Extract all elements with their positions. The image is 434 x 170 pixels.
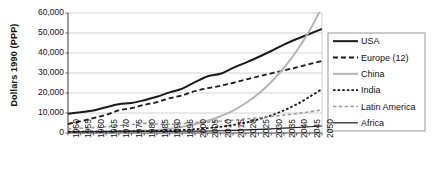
x-tick-label: 1980 [148,119,157,138]
x-tick-label: 1985 [161,119,170,138]
legend-label: Europe (12) [361,53,409,63]
y-tick-label: 10,000 [24,108,64,117]
x-tick-label: 1965 [110,119,119,138]
x-tick-label: 1970 [122,119,131,138]
x-tick-label: 2010 [224,119,233,138]
y-tick-label: 0 [24,128,64,137]
y-tick-label: 60,000 [24,8,64,17]
x-tick-label: 1955 [84,119,93,138]
x-tick-label: 2030 [275,119,284,138]
legend-label: India [361,85,381,95]
series-line-usa [68,29,322,114]
legend-label: Latin America [361,102,416,112]
x-tick-label: 1990 [173,119,182,138]
y-tick-label: 50,000 [24,28,64,37]
y-axis-title: Dollars 1990 (PPP) [9,5,19,125]
x-tick-label: 2005 [211,119,220,138]
x-tick-label: 2015 [237,119,246,138]
x-tick-label: 2040 [300,119,309,138]
x-tick-label: 2020 [249,119,258,138]
x-tick-label: 1995 [186,119,195,138]
legend-label: China [361,69,385,79]
plot-svg: USAEurope (12)ChinaIndiaLatin AmericaAfr… [0,0,434,170]
x-tick-label: 2045 [313,119,322,138]
legend-label: Africa [361,118,384,128]
x-tick-label: 2050 [326,119,335,138]
x-tick-label: 1950 [72,119,81,138]
x-tick-label: 2000 [199,119,208,138]
x-tick-label: 2035 [288,119,297,138]
chart-figure: Dollars 1990 (PPP) 010,00020,00030,00040… [0,0,434,170]
legend-label: USA [361,36,380,46]
legend-box [328,33,425,131]
y-tick-label: 40,000 [24,48,64,57]
x-tick-label: 1975 [135,119,144,138]
y-tick-label: 20,000 [24,88,64,97]
y-tick-label: 30,000 [24,68,64,77]
x-tick-label: 1960 [97,119,106,138]
x-tick-label: 2025 [262,119,271,138]
